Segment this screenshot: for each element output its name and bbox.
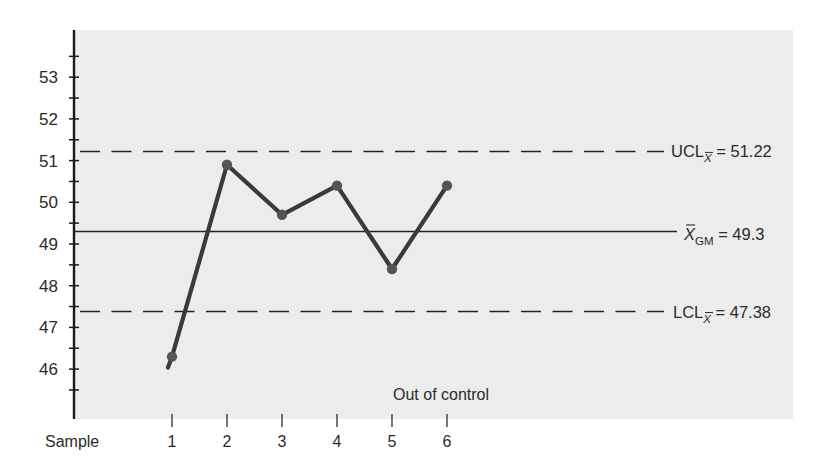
y-tick-label: 46	[39, 360, 58, 379]
y-tick-label: 53	[39, 68, 58, 87]
y-tick-label: 49	[39, 235, 58, 254]
x-tick-label: 4	[333, 433, 342, 450]
y-tick-label: 47	[39, 318, 58, 337]
data-point	[167, 351, 177, 361]
control-chart: 4647484950515253 Sample123456 UCLX = 51.…	[0, 0, 835, 472]
x-tick-label: 5	[388, 433, 397, 450]
x-tick-label: 2	[223, 433, 232, 450]
y-tick-label: 52	[39, 110, 58, 129]
y-tick-label: 50	[39, 193, 58, 212]
x-tick-label: 1	[168, 433, 177, 450]
y-tick-label: 48	[39, 277, 58, 296]
data-point	[277, 210, 287, 220]
data-point	[222, 160, 232, 170]
out-of-control-annotation: Out of control	[393, 386, 489, 403]
x-tick-label: 6	[443, 433, 452, 450]
y-tick-label: 51	[39, 152, 58, 171]
data-point	[387, 264, 397, 274]
data-point	[442, 180, 452, 190]
x-axis-title: Sample	[45, 433, 99, 450]
x-tick-label: 3	[278, 433, 287, 450]
data-point	[332, 180, 342, 190]
